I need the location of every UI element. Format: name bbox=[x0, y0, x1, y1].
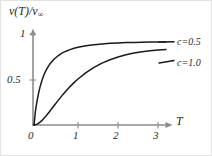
legend-label-c-1-0: c=1.0 bbox=[177, 58, 201, 68]
y-axis-label-subscript: ∞ bbox=[38, 10, 44, 19]
y-tick-label-1: 1 bbox=[20, 28, 26, 39]
x-axis-arrowhead bbox=[166, 122, 173, 128]
legend-tail-c-1-0 bbox=[159, 61, 174, 63]
y-axis-label-main: v(T)/v bbox=[9, 4, 38, 18]
x-axis-label: T bbox=[176, 115, 183, 127]
x-tick-label-2: 2 bbox=[113, 130, 119, 141]
curve-c-1-0 bbox=[34, 49, 166, 125]
x-tick-label-0: 0 bbox=[28, 130, 34, 141]
x-tick-label-3: 3 bbox=[153, 130, 159, 141]
curve-c-0-5 bbox=[34, 42, 166, 125]
x-tick-label-1: 1 bbox=[73, 130, 79, 141]
y-tick-label-0-5: 0.5 bbox=[7, 74, 21, 85]
y-axis-label: v(T)/v∞ bbox=[9, 5, 43, 19]
legend-label-c-0-5: c=0.5 bbox=[177, 37, 201, 47]
velocity-saturation-chart: v(T)/v∞ 1 0.5 0 1 2 3 T c=0.5 c=1.0 bbox=[0, 0, 212, 156]
